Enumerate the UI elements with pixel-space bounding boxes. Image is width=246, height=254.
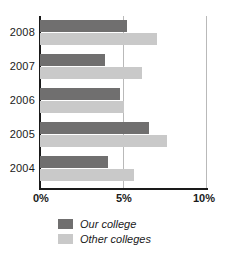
y-axis-label-2007: 2007 [0, 60, 35, 72]
bar-2005-other-colleges [40, 135, 167, 147]
bar-2008-other-colleges [40, 33, 157, 45]
legend-item-our-college: Our college [58, 216, 151, 231]
legend-label-other-colleges: Other colleges [80, 233, 151, 245]
bar-2008-our-college [40, 20, 127, 32]
x-axis-line [39, 188, 208, 190]
legend-label-our-college: Our college [80, 218, 136, 230]
bar-2005-our-college [40, 122, 149, 134]
legend-swatch-other-colleges [58, 234, 73, 244]
bar-2004-our-college [40, 156, 108, 168]
x-axis-tick-5: 5% [116, 192, 132, 204]
bar-2006-our-college [40, 88, 120, 100]
bar-2006-other-colleges [40, 101, 124, 113]
bar-chart: 2008 2007 2006 2005 2004 0% 5% 10% Our c… [0, 0, 246, 254]
x-axis-tick-0: 0% [33, 192, 49, 204]
y-axis-label-2008: 2008 [0, 26, 35, 38]
y-axis-label-2005: 2005 [0, 128, 35, 140]
y-axis-label-2006: 2006 [0, 94, 35, 106]
bar-2007-other-colleges [40, 67, 142, 79]
chart-legend: Our college Other colleges [58, 216, 151, 246]
legend-swatch-our-college [58, 219, 73, 229]
y-axis-label-2004: 2004 [0, 162, 35, 174]
x-axis-tick-10: 10% [193, 192, 215, 204]
legend-item-other-colleges: Other colleges [58, 231, 151, 246]
bar-2004-other-colleges [40, 169, 134, 181]
bar-2007-our-college [40, 54, 105, 66]
plot-area [40, 16, 207, 188]
